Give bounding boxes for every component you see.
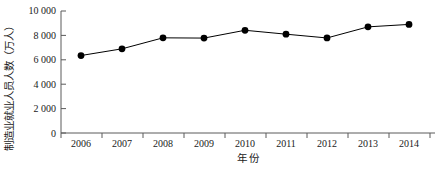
data-point	[283, 31, 290, 38]
x-tick-label: 2008	[153, 138, 173, 150]
x-axis-tick-labels: 2006 2007 2008 2009 2010 2011 2012 2013 …	[0, 138, 446, 152]
data-point	[201, 35, 208, 42]
data-point	[78, 52, 85, 59]
data-markers	[78, 21, 413, 59]
data-point	[365, 23, 372, 30]
x-axis-title: 年 份	[61, 152, 435, 165]
data-point	[406, 21, 413, 28]
y-axis-ticks	[61, 11, 66, 133]
x-tick-label: 2007	[112, 138, 132, 150]
x-tick-label: 2011	[276, 138, 296, 150]
data-point	[119, 45, 126, 52]
x-tick-label: 2012	[317, 138, 337, 150]
data-point	[242, 27, 249, 34]
data-point	[160, 34, 167, 41]
x-tick-label: 2010	[235, 138, 255, 150]
data-point	[324, 35, 331, 42]
x-tick-label: 2006	[71, 138, 91, 150]
line-chart: 制造业就业人员人数（万人） 10 000 8 000 6 000 4 000 2…	[0, 0, 446, 180]
x-tick-label: 2009	[194, 138, 214, 150]
x-tick-label: 2014	[399, 138, 419, 150]
x-tick-label: 2013	[358, 138, 378, 150]
